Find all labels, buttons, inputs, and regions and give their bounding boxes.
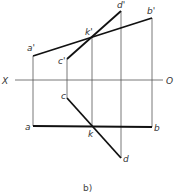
label-k: k (88, 129, 94, 139)
label-d: d (123, 154, 129, 164)
axis-label-x: X (1, 76, 9, 86)
label-a-prime: a' (27, 43, 35, 53)
label-k-prime: k' (85, 27, 93, 37)
label-d-prime: d' (117, 0, 125, 10)
label-a: a (25, 122, 31, 132)
label-c: c (61, 91, 66, 101)
axis-label-o: O (166, 76, 173, 86)
line-c-prime-d-prime (67, 11, 121, 59)
figure-caption: b) (83, 183, 92, 193)
label-b-prime: b' (147, 6, 155, 16)
projection-diagram: X O a' b' c' d' k' a b c d k b) (0, 0, 175, 195)
label-c-prime: c' (58, 56, 65, 66)
label-b: b (154, 123, 160, 133)
line-c-d (67, 98, 121, 158)
